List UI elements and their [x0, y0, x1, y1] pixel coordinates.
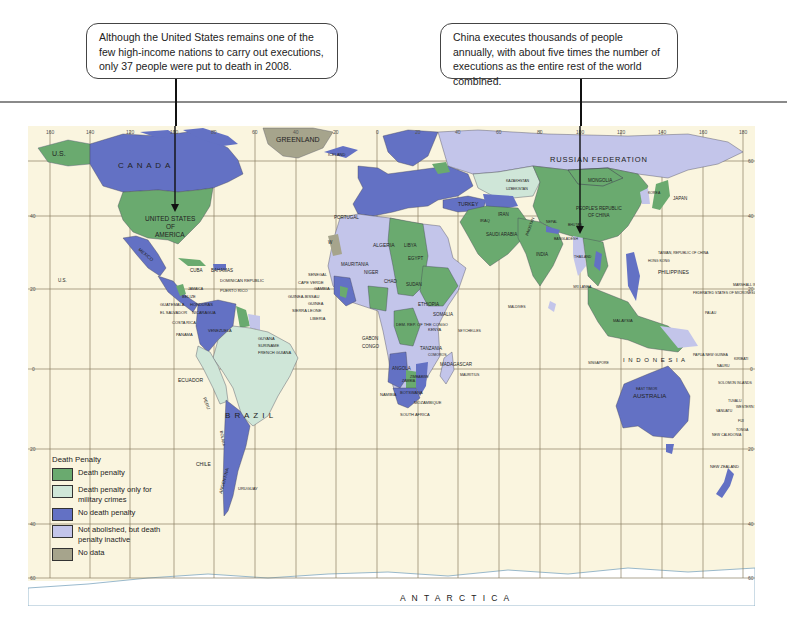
svg-text:SIERRA LEONE: SIERRA LEONE: [292, 308, 322, 313]
svg-text:100: 100: [170, 129, 179, 135]
svg-text:GUINEA-BISSAU: GUINEA-BISSAU: [288, 294, 319, 299]
svg-text:URUGUAY: URUGUAY: [238, 486, 258, 491]
svg-text:GUINEA: GUINEA: [308, 301, 324, 306]
svg-text:SINGAPORE: SINGAPORE: [588, 361, 609, 365]
svg-text:60: 60: [30, 575, 36, 581]
legend-item-no-death-penalty: No death penalty: [52, 508, 170, 521]
svg-text:60: 60: [748, 158, 754, 164]
svg-text:40: 40: [748, 213, 754, 219]
legend-swatch: [52, 468, 73, 481]
svg-text:GAMBIA: GAMBIA: [314, 286, 330, 291]
svg-text:KIRIBATI: KIRIBATI: [734, 357, 748, 361]
svg-text:NICARAGUA: NICARAGUA: [192, 310, 216, 315]
svg-text:0: 0: [376, 129, 379, 135]
callout-us-text: Although the United States remains one o…: [99, 31, 324, 72]
svg-text:0: 0: [750, 366, 753, 372]
legend-swatch: [52, 508, 73, 521]
svg-text:SURINAME: SURINAME: [258, 343, 279, 348]
svg-text:160: 160: [46, 129, 55, 135]
svg-text:CUBA: CUBA: [190, 268, 203, 273]
svg-text:120: 120: [126, 129, 135, 135]
svg-text:EGYPT: EGYPT: [408, 256, 424, 261]
svg-text:40: 40: [30, 521, 36, 527]
svg-text:TANZANIA: TANZANIA: [420, 346, 442, 351]
callout-united-states: Although the United States remains one o…: [86, 23, 338, 79]
svg-text:DEM. REP. OF THE CONGO: DEM. REP. OF THE CONGO: [396, 322, 448, 327]
svg-text:PHILIPPINES: PHILIPPINES: [658, 269, 690, 275]
svg-text:GABON: GABON: [362, 336, 378, 341]
svg-text:NEW ZEALAND: NEW ZEALAND: [710, 464, 739, 469]
legend-label: No death penalty: [78, 508, 135, 518]
callout-china-text: China executes thousands of people annua…: [453, 31, 660, 87]
svg-text:MARSHALL ISLANDS: MARSHALL ISLANDS: [733, 283, 755, 287]
legend-label: No data: [78, 548, 105, 558]
legend-swatch: [52, 525, 73, 538]
svg-text:LIBYA: LIBYA: [404, 243, 416, 248]
svg-text:INDIA: INDIA: [536, 252, 548, 257]
svg-text:120: 120: [617, 129, 626, 135]
svg-text:GUATEMALA: GUATEMALA: [160, 302, 185, 307]
svg-text:FEDERATED STATES OF MICRONESIA: FEDERATED STATES OF MICRONESIA: [693, 291, 755, 295]
svg-text:DOMINICAN REPUBLIC: DOMINICAN REPUBLIC: [220, 278, 264, 283]
legend-title: Death Penalty: [52, 455, 170, 464]
svg-text:COMOROS: COMOROS: [428, 353, 447, 357]
legend-item-death-penalty: Death penalty: [52, 468, 170, 481]
svg-text:NIGER: NIGER: [364, 270, 379, 275]
svg-text:TUVALU: TUVALU: [728, 399, 742, 403]
svg-text:EAST TIMOR: EAST TIMOR: [636, 387, 658, 391]
svg-text:180: 180: [739, 129, 748, 135]
svg-text:20: 20: [415, 129, 421, 135]
svg-text:GUYANA: GUYANA: [258, 336, 275, 341]
svg-text:NEPAL: NEPAL: [546, 220, 557, 224]
legend-label: Death penalty only for military crimes: [78, 485, 170, 504]
svg-text:MADAGASCAR: MADAGASCAR: [440, 362, 473, 367]
svg-text:NAMIBIA: NAMIBIA: [380, 392, 397, 397]
svg-text:A N T A R C T I C A: A N T A R C T I C A: [400, 593, 511, 603]
svg-text:PANAMA: PANAMA: [176, 332, 193, 337]
legend-label: Not abolished, but death penalty inactiv…: [78, 525, 170, 544]
svg-text:ANGOLA: ANGOLA: [392, 366, 411, 371]
svg-text:KAZAKHSTAN: KAZAKHSTAN: [506, 179, 530, 183]
svg-text:KENYA: KENYA: [428, 327, 442, 332]
svg-text:20: 20: [30, 286, 36, 292]
svg-text:NEW CALEDONIA: NEW CALEDONIA: [712, 433, 742, 437]
svg-text:PORTUGAL: PORTUGAL: [334, 215, 359, 220]
svg-text:80: 80: [211, 129, 217, 135]
svg-text:SEYCHELLES: SEYCHELLES: [458, 329, 482, 333]
svg-text:OF CHINA: OF CHINA: [588, 213, 610, 218]
divider-rule: [0, 101, 787, 103]
svg-text:SENEGAL: SENEGAL: [308, 272, 328, 277]
svg-text:PAPUA NEW GUINEA: PAPUA NEW GUINEA: [693, 353, 729, 357]
svg-text:SOUTH AFRICA: SOUTH AFRICA: [400, 412, 430, 417]
svg-text:JAMAICA: JAMAICA: [188, 287, 204, 291]
svg-text:40: 40: [748, 521, 754, 527]
svg-text:KOREA: KOREA: [648, 191, 661, 195]
legend-label: Death penalty: [78, 468, 125, 478]
svg-text:80: 80: [537, 129, 543, 135]
svg-text:SOLOMON ISLANDS: SOLOMON ISLANDS: [718, 381, 753, 385]
legend-item-inactive: Not abolished, but death penalty inactiv…: [52, 525, 170, 544]
svg-text:EL SALVADOR: EL SALVADOR: [160, 310, 187, 315]
svg-text:CHAD: CHAD: [384, 279, 398, 284]
svg-text:ZAMBIA: ZAMBIA: [402, 379, 416, 383]
svg-text:160: 160: [699, 129, 708, 135]
svg-text:PEOPLE'S REPUBLIC: PEOPLE'S REPUBLIC: [576, 206, 622, 211]
callout-china: China executes thousands of people annua…: [440, 23, 678, 79]
svg-text:20: 20: [30, 446, 36, 452]
legend-swatch: [52, 548, 73, 561]
svg-text:JAPAN: JAPAN: [673, 196, 687, 201]
svg-text:MALDIVES: MALDIVES: [508, 305, 526, 309]
map-legend: Death Penalty Death penalty Death penalt…: [52, 455, 170, 565]
svg-text:SUDAN: SUDAN: [406, 282, 422, 287]
svg-text:CHILE: CHILE: [196, 461, 211, 467]
svg-text:MAURITIUS: MAURITIUS: [460, 373, 480, 377]
svg-text:140: 140: [86, 129, 95, 135]
svg-text:BOTSWANA: BOTSWANA: [400, 390, 423, 395]
svg-text:TURKEY: TURKEY: [458, 201, 479, 207]
svg-text:PALAU: PALAU: [705, 311, 717, 315]
svg-text:40: 40: [455, 129, 461, 135]
svg-text:ICELAND: ICELAND: [328, 152, 345, 157]
svg-text:U.S.: U.S.: [58, 278, 67, 283]
svg-text:IRAN: IRAN: [498, 212, 509, 217]
svg-text:BANGLADESH: BANGLADESH: [554, 237, 578, 241]
